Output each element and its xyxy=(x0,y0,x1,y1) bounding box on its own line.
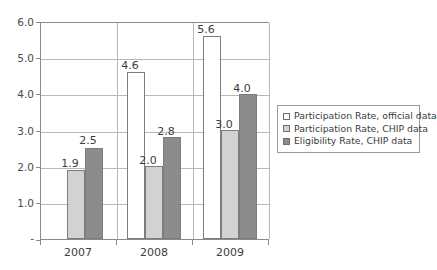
x-axis-category-label-2009: 2009 xyxy=(192,247,268,259)
x-axis-category-label-2007: 2007 xyxy=(40,247,116,259)
gridline xyxy=(41,95,269,96)
legend-item-eligibility-chip[interactable]: Eligibility Rate, CHIP data xyxy=(283,135,414,148)
legend-swatch-icon xyxy=(283,125,290,132)
bar-2009-participation-official[interactable] xyxy=(203,36,221,239)
legend-item-participation-chip[interactable]: Participation Rate, CHIP data xyxy=(283,123,414,136)
data-label-2009-participation-chip: 3.0 xyxy=(210,119,238,130)
bar-2008-eligibility-chip[interactable] xyxy=(163,137,181,239)
data-label-2009-participation-official: 5.6 xyxy=(192,24,220,35)
bar-2007-eligibility-chip[interactable] xyxy=(85,148,103,239)
x-axis-tick-mark xyxy=(268,240,269,245)
bar-2008-participation-chip[interactable] xyxy=(145,166,163,239)
category-separator xyxy=(117,23,118,239)
y-axis-tick-label: 6.0 xyxy=(0,17,34,27)
data-label-2008-eligibility-chip: 2.8 xyxy=(152,126,180,137)
y-axis-tick-label: 1.0 xyxy=(0,198,34,208)
data-label-2008-participation-chip: 2.0 xyxy=(134,155,162,166)
gridline xyxy=(41,59,269,60)
x-axis-tick-mark xyxy=(116,240,117,245)
category-separator xyxy=(193,23,194,239)
data-label-2007-eligibility-chip: 2.5 xyxy=(74,135,102,146)
x-axis-tick-mark xyxy=(40,240,41,245)
legend-item-label: Participation Rate, official data xyxy=(294,110,437,123)
x-axis-tick-mark xyxy=(192,240,193,245)
data-label-2008-participation-official: 4.6 xyxy=(116,60,144,71)
y-axis-tick-label: 3.0 xyxy=(0,126,34,136)
bar-2009-participation-chip[interactable] xyxy=(221,130,239,239)
legend: Participation Rate, official data Partic… xyxy=(277,105,420,153)
bar-2007-participation-chip[interactable] xyxy=(67,170,85,239)
legend-item-label: Eligibility Rate, CHIP data xyxy=(294,135,412,148)
bar-2009-eligibility-chip[interactable] xyxy=(239,94,257,239)
y-axis-tick-label: 5.0 xyxy=(0,53,34,63)
legend-swatch-icon xyxy=(283,138,290,145)
x-axis-category-label-2008: 2008 xyxy=(116,247,192,259)
y-axis-tick-label: 4.0 xyxy=(0,89,34,99)
category-separator xyxy=(269,23,270,239)
y-axis-tick-label: - xyxy=(0,233,34,243)
legend-item-label: Participation Rate, CHIP data xyxy=(294,123,428,136)
legend-item-participation-official[interactable]: Participation Rate, official data xyxy=(283,110,414,123)
data-label-2007-participation-chip: 1.9 xyxy=(56,158,84,169)
y-axis-tick-label: 2.0 xyxy=(0,162,34,172)
legend-swatch-icon xyxy=(283,113,290,120)
data-label-2009-eligibility-chip: 4.0 xyxy=(228,83,256,94)
